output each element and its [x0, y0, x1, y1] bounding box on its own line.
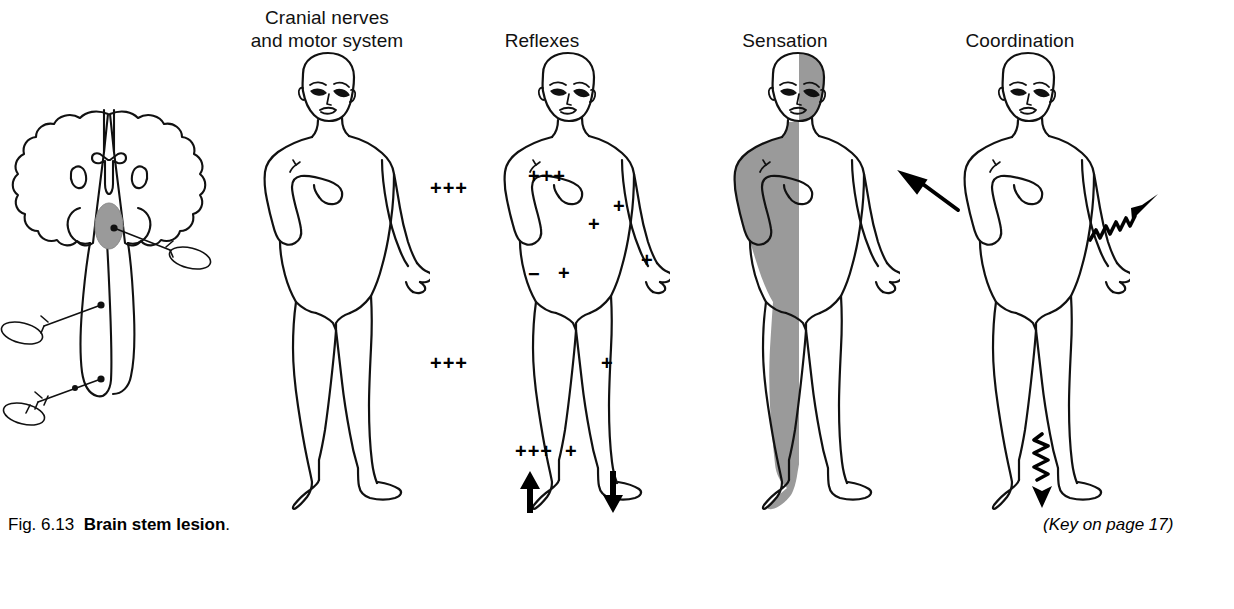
plantar-response-right-down-arrow	[598, 470, 628, 514]
reflex-mark-ankle-right: +	[565, 441, 578, 461]
reflex-mark-ankle-left: +++	[515, 441, 553, 461]
reflex-mark-knee-left: +++	[430, 353, 468, 373]
figure-caption: Fig. 6.13 Brain stem lesion.	[8, 515, 230, 535]
figure-number: Fig. 6.13	[8, 515, 74, 534]
figure-caption-period: .	[225, 515, 230, 534]
coordination-arrow-arm-right-zigzag	[1086, 188, 1166, 248]
sensation-shaded-body-left	[700, 122, 799, 510]
brainstem-lesion-diagram	[0, 100, 220, 430]
plantar-response-left-up-arrow	[515, 470, 545, 514]
figure-title: Brain stem lesion	[84, 515, 226, 534]
figure-page: Cranial nerves and motor system Reflexes…	[0, 0, 1234, 609]
coordination-arrow-arm-left-straight	[896, 168, 966, 218]
reflex-mark-abdominal-left: −	[528, 264, 540, 284]
reflex-mark-triceps-right: +	[588, 214, 601, 234]
column-title-cranial-nerves: Cranial nerves and motor system	[207, 6, 447, 52]
column-title-reflexes: Reflexes	[462, 29, 622, 52]
key-reference-note: (Key on page 17)	[1043, 515, 1173, 535]
reflex-mark-biceps-left: +++	[430, 178, 468, 198]
reflex-mark-brachioradialis-right: +	[641, 250, 654, 270]
figure-cranial-nerves-and-motor-system	[230, 50, 430, 510]
reflex-mark-biceps-right: +	[613, 196, 626, 216]
column-title-coordination: Coordination	[920, 29, 1120, 52]
figure-sensation	[700, 50, 900, 510]
reflex-mark-knee-right: +	[601, 353, 614, 373]
coordination-arrow-leg-right-zigzag	[1027, 432, 1061, 510]
column-title-sensation: Sensation	[700, 29, 870, 52]
reflex-mark-pectoral-left: +++	[528, 166, 566, 186]
reflex-mark-abdominal-right: +	[558, 263, 571, 283]
